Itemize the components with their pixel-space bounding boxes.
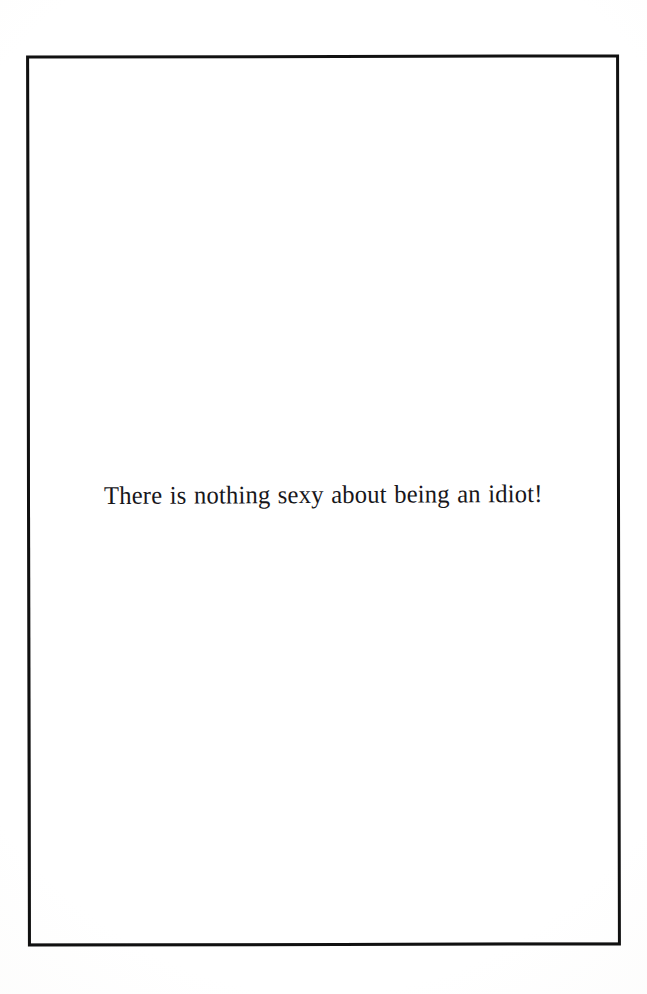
- scanned-page: There is nothing sexy about being an idi…: [0, 0, 647, 994]
- quote-text: There is nothing sexy about being an idi…: [104, 477, 543, 513]
- quote-block: There is nothing sexy about being an idi…: [27, 478, 620, 512]
